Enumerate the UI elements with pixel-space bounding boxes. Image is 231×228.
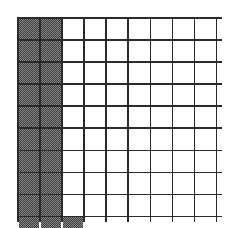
grid-cell-empty (151, 173, 172, 194)
grid-cell-empty (217, 41, 231, 62)
grid-cell-empty (151, 129, 172, 150)
grid-cell-empty (63, 41, 84, 62)
grid-cell-empty (107, 85, 128, 106)
grid-cell-empty (195, 217, 216, 228)
grid-cell-empty (63, 107, 84, 128)
grid-cell-shaded (41, 63, 62, 84)
grid-cell-shaded (19, 195, 40, 216)
grid-cell-empty (195, 151, 216, 172)
grid-cell-empty (173, 41, 194, 62)
grid-cell-empty (217, 107, 231, 128)
grid-cell-empty (195, 173, 216, 194)
grid-cell-empty (107, 173, 128, 194)
grid-cell-empty (217, 173, 231, 194)
grid-cell-empty (151, 63, 172, 84)
grid-cell-empty (173, 107, 194, 128)
grid-cell-empty (173, 217, 194, 228)
grid-cell-empty (63, 151, 84, 172)
grid-cell-empty (85, 19, 106, 40)
grid-cell-empty (195, 195, 216, 216)
grid-cell-empty (85, 41, 106, 62)
grid-cell-empty (195, 41, 216, 62)
grid-cell-empty (107, 107, 128, 128)
grid-cell-empty (217, 19, 231, 40)
grid-cell-shaded (41, 195, 62, 216)
grid-cell-empty (85, 151, 106, 172)
grid-cell-empty (173, 85, 194, 106)
grid-cell-empty (151, 41, 172, 62)
grid-cell-empty (195, 107, 216, 128)
grid-cell-empty (63, 195, 84, 216)
grid-cell-shaded (41, 173, 62, 194)
grid-cell-shaded (19, 41, 40, 62)
grid-cell-empty (129, 195, 150, 216)
grid-cell-empty (129, 151, 150, 172)
grid-cell-shaded (19, 217, 40, 228)
grid-cell-empty (85, 107, 106, 128)
grid-cell-shaded (19, 173, 40, 194)
grid-cell-shaded (41, 129, 62, 150)
grid-cell-shaded (41, 217, 62, 228)
grid-cell-empty (151, 85, 172, 106)
grid-cell-empty (129, 85, 150, 106)
grid-cell-empty (129, 173, 150, 194)
grid-cell-empty (129, 107, 150, 128)
grid-cell-shaded (19, 151, 40, 172)
grid-cell-shaded (19, 85, 40, 106)
grid-cell-shaded (63, 217, 84, 228)
grid-cell-empty (63, 173, 84, 194)
grid-cell-empty (129, 19, 150, 40)
grid-cell-shaded (19, 129, 40, 150)
hundredths-grid (17, 17, 222, 222)
grid-cell-empty (173, 19, 194, 40)
grid-cell-shaded (41, 41, 62, 62)
grid-cell-shaded (19, 107, 40, 128)
grid-cell-empty (217, 195, 231, 216)
grid-cell-empty (195, 63, 216, 84)
grid-cell-empty (85, 129, 106, 150)
grid-cell-empty (217, 217, 231, 228)
grid-cell-empty (173, 195, 194, 216)
grid-cell-empty (173, 151, 194, 172)
grid-cell-empty (173, 173, 194, 194)
grid-cell-empty (129, 217, 150, 228)
grid-cell-empty (151, 217, 172, 228)
grid-cell-empty (217, 151, 231, 172)
grid-cell-empty (173, 63, 194, 84)
grid-cell-empty (151, 19, 172, 40)
hundredths-grid-figure (0, 0, 231, 228)
grid-cell-empty (85, 85, 106, 106)
grid-cell-empty (129, 129, 150, 150)
grid-cell-shaded (41, 19, 62, 40)
grid-cell-empty (173, 129, 194, 150)
grid-cell-empty (107, 63, 128, 84)
grid-cell-empty (195, 19, 216, 40)
grid-cell-empty (151, 107, 172, 128)
grid-cell-empty (107, 41, 128, 62)
grid-cell-shaded (41, 151, 62, 172)
grid-cell-empty (85, 217, 106, 228)
grid-cell-empty (107, 19, 128, 40)
grid-cell-empty (85, 173, 106, 194)
grid-cell-empty (63, 63, 84, 84)
grid-cell-shaded (41, 107, 62, 128)
grid-cell-empty (217, 63, 231, 84)
grid-cell-empty (129, 41, 150, 62)
grid-cell-empty (107, 151, 128, 172)
grid-cell-shaded (19, 63, 40, 84)
grid-cell-shaded (19, 19, 40, 40)
grid-cell-empty (107, 129, 128, 150)
grid-cell-shaded (41, 85, 62, 106)
grid-cell-empty (195, 85, 216, 106)
grid-cell-empty (217, 129, 231, 150)
grid-cell-empty (217, 85, 231, 106)
grid-cell-empty (195, 129, 216, 150)
grid-cell-empty (151, 195, 172, 216)
grid-cell-empty (151, 151, 172, 172)
grid-cell-empty (129, 63, 150, 84)
grid-cell-empty (107, 195, 128, 216)
grid-cell-empty (63, 129, 84, 150)
grid-cell-empty (85, 195, 106, 216)
grid-cell-empty (85, 63, 106, 84)
grid-cell-empty (63, 19, 84, 40)
